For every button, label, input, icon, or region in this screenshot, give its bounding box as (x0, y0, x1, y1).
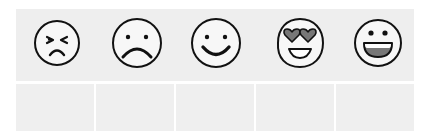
angry-face-icon (32, 18, 82, 68)
sad-face-icon (109, 16, 165, 70)
angry-face-option[interactable] (29, 13, 85, 73)
smiling-face-icon (188, 16, 244, 70)
emoji-rating-widget (16, 9, 414, 131)
rating-box-4[interactable] (256, 84, 334, 131)
rating-box-2[interactable] (96, 84, 174, 131)
very-happy-face-option[interactable] (350, 13, 406, 73)
sad-face-option[interactable] (109, 13, 165, 73)
rating-box-1[interactable] (16, 84, 94, 131)
grinning-face-icon (352, 17, 404, 69)
rating-box-5[interactable] (336, 84, 414, 131)
heart-eyes-face-icon (272, 15, 328, 71)
rating-box-3[interactable] (176, 84, 254, 131)
happy-face-option[interactable] (188, 13, 244, 73)
face-row (16, 9, 414, 81)
love-face-option[interactable] (272, 13, 328, 73)
rating-box-row (16, 84, 414, 131)
